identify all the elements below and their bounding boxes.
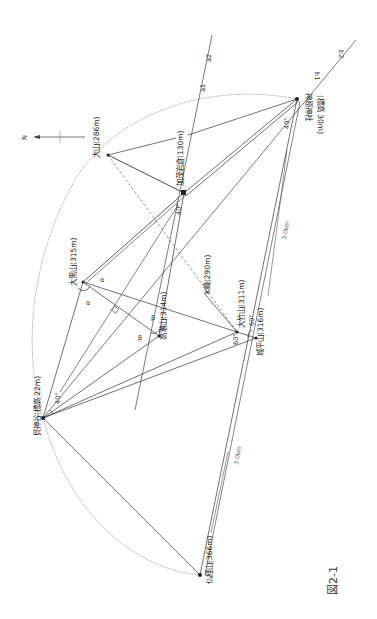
label-kpeak: K峰(290m) [202, 255, 212, 294]
line-kamidani-otake [43, 332, 237, 418]
line-kanbara-west [188, 99, 297, 135]
distance-lower: 3.0km [232, 445, 242, 465]
line-kamidani-jogahira [43, 338, 256, 418]
label-kanbara-jinja: 神原神社 [304, 93, 314, 122]
label-daikoku: 大黒山(315m) [68, 237, 78, 286]
right-angle-mark [112, 306, 119, 313]
distance-upper: 3.0km [280, 220, 290, 240]
line-daikoku-takase [83, 282, 159, 336]
figure-caption: 図2-1 [327, 566, 340, 595]
angle-kamidani: 40° [54, 392, 62, 404]
line-kamo-kanbara-1 [184, 99, 297, 193]
label-jogahira: 城平山(316m) [255, 307, 265, 356]
label-oyama: 大山(286m) [91, 116, 101, 158]
angle-beta-1: β [151, 314, 155, 322]
label-b2: b2 [337, 50, 345, 58]
angle-alpha-2: α [86, 299, 90, 307]
label-b1: b1 [313, 72, 321, 80]
line-daikoku-kamidani [43, 282, 83, 418]
line-kamo-daikoku-2 [85, 195, 186, 284]
label-otake: 大竹山(311m) [236, 279, 246, 328]
label-kamidani: 貝神谷(標高 22m) [32, 376, 42, 436]
distance-arrow-lower [211, 452, 228, 533]
label-kanbara-elev: (標高 30m) [316, 95, 326, 134]
angle-alpha-1: α [100, 276, 104, 284]
line-kamo-kanbara-2 [186, 101, 299, 196]
line-oyama-kanbara [108, 138, 176, 155]
line-kamidani-butsukyo [43, 418, 200, 575]
triangulation-diagram: N 大山(286m) [0, 0, 377, 619]
line-kpeak-otake [204, 293, 237, 332]
angle-arc-kamidani [50, 410, 53, 414]
line-oyama-kpeak-dashed [108, 155, 237, 332]
label-a2: a2 [205, 54, 213, 62]
angle-kamo: 40° [175, 203, 183, 215]
label-takase: 高瀬山(314m) [158, 291, 168, 340]
line-kanbara-butsukyo-1 [200, 99, 297, 575]
label-butsukyo: 仏経山(366m) [204, 535, 214, 584]
angle-kanbara: 40° [283, 117, 291, 129]
north-label: N [20, 135, 28, 140]
label-a1: a1 [199, 84, 207, 92]
line-kamo-daikoku-1 [83, 193, 184, 282]
angle-beta-2: β [138, 334, 142, 342]
angle-arc-daikoku [78, 286, 90, 291]
line-oyama-kamo [108, 155, 184, 193]
label-kamo-iwakura: 加茂岩倉(130m) [175, 130, 185, 186]
angle-otake: 60° [232, 333, 240, 345]
north-arrow: N [20, 131, 85, 143]
angle-jogahira: 60° [248, 314, 256, 326]
line-kanbara-butsukyo-2 [205, 102, 300, 575]
